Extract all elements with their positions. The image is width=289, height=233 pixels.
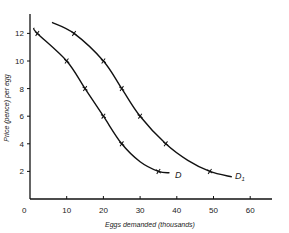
y-tick-label: 12	[15, 29, 24, 38]
y-tick-label: 6	[20, 112, 25, 121]
point-markers	[33, 29, 214, 175]
y-tick-label: 8	[20, 85, 25, 94]
y-tick-label: 4	[20, 140, 25, 149]
y-axis-title: Price (pence) per egg	[3, 74, 11, 141]
x-tick-label: 60	[246, 206, 255, 215]
curve-label-d1: D1	[235, 171, 245, 182]
point-marker	[99, 112, 107, 120]
y-ticks: 24681012	[15, 29, 30, 176]
y-tick-label: 2	[20, 167, 25, 176]
x-tick-label: 30	[136, 206, 145, 215]
curve-label-d: D	[175, 170, 182, 180]
demand-curve-d1	[52, 22, 232, 177]
point-marker	[81, 84, 89, 92]
demand-curve-chart: 24681012 102030405060 0 Eggs demanded (t…	[0, 0, 289, 233]
x-tick-label: 20	[99, 206, 108, 215]
x-axis-title: Eggs demanded (thousands)	[105, 221, 195, 229]
x-tick-label: 50	[209, 206, 218, 215]
point-marker	[154, 167, 162, 175]
y-tick-label: 10	[15, 57, 24, 66]
x-tick-label: 10	[62, 206, 71, 215]
point-marker	[206, 167, 214, 175]
origin-label: 0	[22, 206, 27, 215]
demand-curve-d	[34, 28, 170, 173]
x-tick-label: 40	[172, 206, 181, 215]
curves	[34, 22, 232, 177]
point-marker	[118, 84, 126, 92]
curve-label-d1-subscript: 1	[242, 176, 245, 182]
